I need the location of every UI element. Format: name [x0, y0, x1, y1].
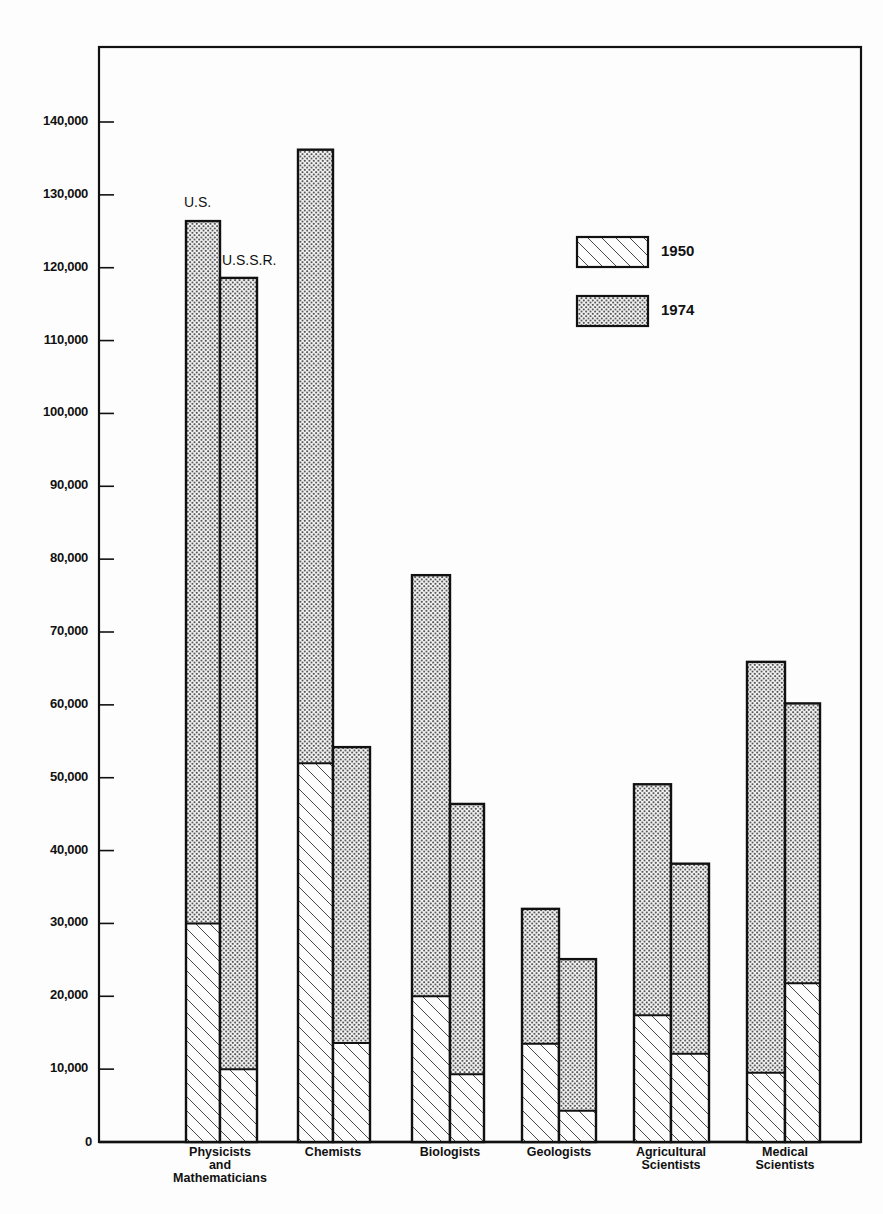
bar-us-4	[634, 784, 671, 1142]
bar-segment-1950	[559, 1111, 596, 1142]
bar-segment-1950	[450, 1074, 484, 1142]
y-tick-label: 50,000	[8, 769, 88, 784]
y-tick-label: 100,000	[8, 404, 88, 419]
bar-ussr-1	[333, 747, 370, 1142]
bar-chart: 010,00020,00030,00040,00050,00060,00070,…	[0, 0, 883, 1214]
bar-ussr-0	[220, 278, 257, 1142]
y-tick-label: 110,000	[8, 332, 88, 347]
x-category-label: Geologists	[499, 1146, 619, 1159]
bar-segment-1950	[333, 1043, 370, 1142]
bar-segment-1950	[671, 1054, 709, 1142]
legend-label-1950: 1950	[661, 242, 694, 259]
bar-us-5	[747, 662, 785, 1142]
y-tick-label: 130,000	[8, 186, 88, 201]
bar-ussr-5	[785, 703, 820, 1142]
y-tick-label: 40,000	[8, 842, 88, 857]
bar-segment-1950	[220, 1069, 257, 1142]
y-tick-label: 140,000	[8, 113, 88, 128]
bar-us-3	[522, 909, 559, 1142]
x-category-label: Physicists and Mathematicians	[160, 1146, 280, 1185]
bar-segment-1950	[634, 1015, 671, 1142]
y-tick-label: 60,000	[8, 696, 88, 711]
bar-us-0	[186, 221, 220, 1142]
y-tick-label: 90,000	[8, 477, 88, 492]
x-category-label: Biologists	[390, 1146, 510, 1159]
chart-canvas	[0, 0, 883, 1214]
bar-segment-1950	[298, 763, 333, 1142]
bar-ussr-3	[559, 959, 596, 1142]
y-tick-label: 30,000	[8, 914, 88, 929]
y-tick-label: 80,000	[8, 550, 88, 565]
legend	[577, 237, 648, 326]
bars	[186, 150, 820, 1142]
y-tick-label: 0	[12, 1134, 92, 1149]
annotation-ussr: U.S.S.R.	[222, 252, 276, 268]
legend-swatch-1950	[577, 237, 648, 267]
bar-us-2	[412, 575, 450, 1142]
x-category-label: Medical Scientists	[725, 1146, 845, 1172]
bar-segment-1950	[412, 996, 450, 1142]
y-tick-label: 10,000	[8, 1060, 88, 1075]
bar-segment-1950	[522, 1044, 559, 1142]
y-tick-label: 120,000	[8, 259, 88, 274]
bar-segment-1950	[747, 1073, 785, 1142]
x-category-label: Chemists	[273, 1146, 393, 1159]
bar-segment-1974	[220, 278, 257, 1142]
bar-segment-1974	[747, 662, 785, 1142]
legend-label-1974: 1974	[661, 301, 694, 318]
bar-segment-1950	[186, 923, 220, 1142]
y-tick-label: 70,000	[8, 623, 88, 638]
legend-swatch-1974	[577, 296, 648, 326]
bar-segment-1950	[785, 983, 820, 1142]
bar-ussr-4	[671, 864, 709, 1142]
y-tick-label: 20,000	[8, 987, 88, 1002]
annotation-us: U.S.	[184, 194, 211, 210]
bar-ussr-2	[450, 804, 484, 1142]
x-category-label: Agricultural Scientists	[611, 1146, 731, 1172]
bar-us-1	[298, 150, 333, 1142]
